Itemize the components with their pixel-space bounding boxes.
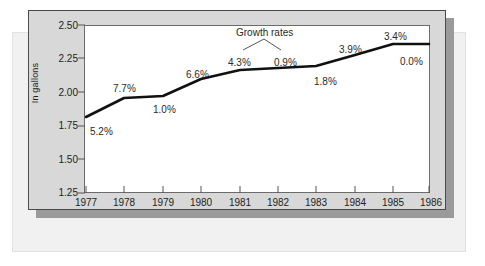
growth-rate-label: 0.9%: [274, 57, 297, 68]
y-tick-label: 1.75: [44, 120, 78, 131]
x-tick-label: 1978: [104, 197, 144, 208]
x-tick-label: 1979: [143, 197, 183, 208]
growth-rate-label: 7.7%: [113, 83, 136, 94]
y-tick-label: 1.50: [44, 154, 78, 165]
x-tick-label: 1980: [181, 197, 221, 208]
growth-rate-label: 4.3%: [228, 57, 251, 68]
x-tick-label: 1977: [66, 197, 106, 208]
x-tick-label: 1984: [335, 197, 375, 208]
plot-area: [84, 25, 430, 193]
growth-rate-label: 5.2%: [90, 126, 113, 137]
growth-rates-annotation-title: Growth rates: [236, 27, 293, 38]
y-tick-label: 2.50: [44, 20, 78, 31]
growth-rate-label: 1.8%: [314, 76, 337, 87]
x-tick-label: 1982: [258, 197, 298, 208]
growth-rate-label: 0.0%: [400, 56, 423, 67]
x-tick-label: 1983: [296, 197, 336, 208]
y-axis-title: In gallons: [30, 43, 40, 123]
growth-rate-label: 1.0%: [153, 104, 176, 115]
y-tick-label: 2.00: [44, 87, 78, 98]
growth-rate-label: 3.4%: [384, 31, 407, 42]
growth-rate-label: 6.6%: [186, 69, 209, 80]
x-tick-label: 1986: [411, 197, 451, 208]
x-tick-label: 1981: [220, 197, 260, 208]
growth-rate-label: 3.9%: [339, 44, 362, 55]
y-tick-label: 2.25: [44, 53, 78, 64]
x-tick-label: 1985: [373, 197, 413, 208]
chart-figure: In gallons 2.50 2.25 2.00 1.75 1.50 1.25…: [0, 0, 485, 266]
